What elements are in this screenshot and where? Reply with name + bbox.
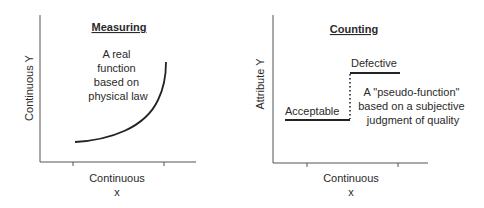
measuring-title: Measuring [91,21,146,33]
defective-label: Defective [351,57,397,69]
measuring-annotation-line-4: physical law [88,90,147,102]
physical-law-curve [75,62,166,142]
measuring-annotation-line-2: function [97,62,136,74]
measuring-panel: Measuring A real function based on physi… [23,15,196,198]
counting-x-axis-label: Continuous [323,172,379,184]
measuring-annotation-line-1: A real [102,48,130,60]
counting-title: Counting [330,23,378,35]
counting-panel: Counting Acceptable Defective A "pseudo-… [254,15,468,198]
measuring-annotation-line-3: based on [94,76,139,88]
counting-annotation-line-1: A "pseudo-function" [364,86,460,98]
measuring-x-axis-label: Continuous [89,172,145,184]
diagram-canvas: Measuring A real function based on physi… [0,0,484,208]
measuring-axes [40,15,196,162]
counting-annotation: A "pseudo-function" based on a subjectiv… [358,86,467,126]
counting-x-axis-variable: x [348,186,354,198]
measuring-annotation: A real function based on physical law [88,48,147,102]
counting-y-axis-label: Attribute Y [254,58,266,110]
counting-annotation-line-2: based on a subjective [358,100,464,112]
counting-annotation-line-3: judgment of quality [366,114,460,126]
measuring-x-axis-variable: x [114,186,120,198]
measuring-y-axis-label: Continuous Y [23,54,35,121]
acceptable-label: Acceptable [285,105,339,117]
